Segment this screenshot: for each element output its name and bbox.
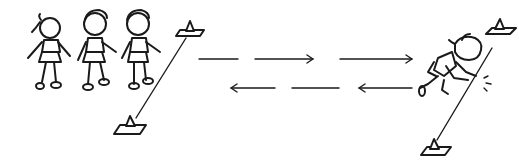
cone-marker-start-bottom <box>114 116 146 134</box>
cone-marker-turn-bottom <box>421 139 451 155</box>
start-line <box>136 38 186 118</box>
turn-line <box>437 48 492 140</box>
drill-illustration <box>0 0 519 162</box>
cone-marker-turn-top <box>486 19 516 34</box>
return-path <box>231 84 412 92</box>
cone-marker-start-top <box>176 21 204 36</box>
outbound-path <box>199 55 412 63</box>
child-figure-2 <box>78 10 116 90</box>
child-figure-1 <box>28 14 70 89</box>
child-figure-3 <box>122 10 160 89</box>
runner-figure <box>419 34 491 96</box>
